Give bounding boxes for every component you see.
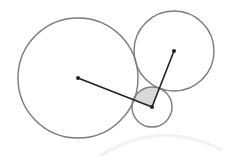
tangent-circles-diagram: [0, 0, 249, 156]
center-upper-right-point: [172, 49, 176, 53]
faint-arc: [100, 135, 222, 156]
center-small-point: [150, 105, 154, 109]
center-large-point: [76, 76, 80, 80]
